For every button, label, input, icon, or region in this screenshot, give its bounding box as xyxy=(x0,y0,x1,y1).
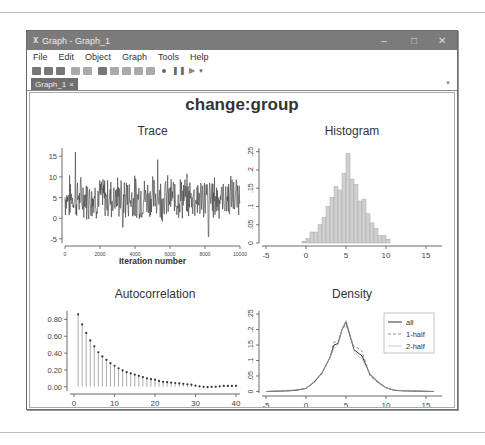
svg-text:5: 5 xyxy=(53,194,57,203)
svg-text:8000: 8000 xyxy=(199,251,210,257)
acf-point xyxy=(162,381,164,383)
acf-point xyxy=(130,372,132,374)
svg-text:-5: -5 xyxy=(262,401,270,407)
histogram-bar xyxy=(322,217,326,243)
acf-point xyxy=(117,367,119,369)
toolbar: ❚❚ ▶ ▼ xyxy=(27,64,457,77)
svg-text:.2: .2 xyxy=(247,327,254,333)
svg-text:0: 0 xyxy=(72,399,77,407)
acf-point xyxy=(194,384,196,386)
chart-title: Histogram xyxy=(325,124,380,138)
maximize-button[interactable]: □ xyxy=(401,31,427,50)
select-icon[interactable] xyxy=(110,67,119,75)
back-icon[interactable] xyxy=(146,67,155,75)
histogram-bar xyxy=(346,153,350,243)
acf-point xyxy=(235,385,237,387)
svg-text:15: 15 xyxy=(422,401,431,407)
menu-file[interactable]: File xyxy=(33,52,48,62)
chart-title: Autocorrelation xyxy=(115,287,196,301)
acf-point xyxy=(109,362,111,364)
chart-trace: Trace0200040006000800010000-5051015Itera… xyxy=(49,124,248,266)
copy-icon[interactable] xyxy=(71,67,80,75)
menu-tools[interactable]: Tools xyxy=(158,52,179,62)
acf-point xyxy=(138,375,140,377)
histogram-bar xyxy=(354,185,358,243)
acf-point xyxy=(186,383,188,385)
acf-point xyxy=(182,383,184,385)
trace-line xyxy=(65,152,240,237)
play-icon[interactable]: ▶ xyxy=(189,66,195,75)
histogram-bar xyxy=(378,236,382,243)
svg-text:0.80: 0.80 xyxy=(47,315,62,324)
acf-point xyxy=(81,323,83,325)
record-icon[interactable] xyxy=(162,69,166,73)
window-title: Graph - Graph_1 xyxy=(42,36,110,46)
chart-density: Density-50510150.05.1.15.2.25all1-half2-… xyxy=(247,287,442,407)
save-icon[interactable] xyxy=(44,67,53,75)
histogram-bar xyxy=(310,232,314,243)
histogram-bar xyxy=(306,239,310,243)
rewind-icon[interactable] xyxy=(134,67,143,75)
menu-edit[interactable]: Edit xyxy=(59,52,75,62)
edit-graph-icon[interactable] xyxy=(98,67,107,75)
acf-point xyxy=(207,386,209,388)
title-bar[interactable]: 𝚾 Graph - Graph_1 – □ ✕ xyxy=(27,31,457,50)
svg-text:0: 0 xyxy=(53,214,57,223)
svg-text:5: 5 xyxy=(344,401,349,407)
pointer-icon[interactable] xyxy=(122,67,131,75)
svg-text:Lag: Lag xyxy=(148,406,162,407)
histogram-bar xyxy=(330,197,334,243)
legend-label: 2-half xyxy=(406,342,426,351)
tab-graph-1[interactable]: Graph_1 × xyxy=(31,78,78,90)
svg-text:.25: .25 xyxy=(247,147,254,157)
acf-point xyxy=(150,378,152,380)
histogram-bar xyxy=(326,206,330,243)
svg-text:.2: .2 xyxy=(247,167,254,173)
bottom-divider xyxy=(0,432,485,433)
chart-autocorrelation: Autocorrelation0102030400.000.200.400.60… xyxy=(47,287,241,407)
print-icon[interactable] xyxy=(56,67,65,75)
tab-close-icon[interactable]: × xyxy=(69,80,74,89)
close-button[interactable]: ✕ xyxy=(429,31,455,50)
svg-text:0.60: 0.60 xyxy=(47,332,62,341)
acf-point xyxy=(146,377,148,379)
svg-text:0: 0 xyxy=(247,389,254,393)
histogram-bar xyxy=(342,174,346,243)
menu-help[interactable]: Help xyxy=(190,52,209,62)
paste-icon[interactable] xyxy=(83,67,92,75)
svg-text:5: 5 xyxy=(344,251,349,260)
histogram-bar xyxy=(338,190,342,243)
svg-text:15: 15 xyxy=(422,251,431,260)
acf-point xyxy=(142,376,144,378)
acf-point xyxy=(202,386,204,388)
acf-point xyxy=(158,380,160,382)
minimize-button[interactable]: – xyxy=(371,31,397,50)
pause-icon[interactable]: ❚❚ xyxy=(172,66,186,75)
acf-point xyxy=(211,386,213,388)
acf-point xyxy=(89,339,91,341)
legend-label: 1-half xyxy=(406,330,426,339)
acf-point xyxy=(219,385,221,387)
more-icon[interactable]: ▼ xyxy=(198,68,204,74)
histogram-bar xyxy=(318,225,322,243)
histogram-bar xyxy=(358,201,362,243)
combined-graph: Trace0200040006000800010000-5051015Itera… xyxy=(30,93,454,407)
histogram-bar xyxy=(302,241,306,243)
menu-graph[interactable]: Graph xyxy=(122,52,147,62)
chart-title: Density xyxy=(332,287,372,301)
svg-text:10000: 10000 xyxy=(233,251,247,257)
legend-label: all xyxy=(406,318,414,327)
acf-point xyxy=(178,382,180,384)
chart-title: Trace xyxy=(137,124,168,138)
acf-point xyxy=(105,359,107,361)
svg-text:0: 0 xyxy=(247,241,254,245)
menu-bar: File Edit Object Graph Tools Help xyxy=(27,50,457,64)
histogram-bar xyxy=(382,236,386,243)
tab-dropdown-icon[interactable]: ▼ xyxy=(445,80,451,86)
menu-object[interactable]: Object xyxy=(85,52,111,62)
svg-text:0: 0 xyxy=(304,401,309,407)
svg-text:40: 40 xyxy=(231,399,240,407)
histogram-bar xyxy=(334,186,338,243)
acf-point xyxy=(170,381,172,383)
open-icon[interactable] xyxy=(32,67,41,75)
